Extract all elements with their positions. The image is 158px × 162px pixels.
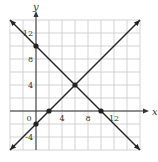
y-tick-label: 8: [28, 55, 33, 64]
y-tick-label: 12: [23, 29, 33, 38]
x-tick-label: 8: [85, 114, 90, 123]
data-point: [98, 108, 103, 113]
data-point: [33, 121, 38, 126]
y-tick-label: 4: [28, 81, 33, 90]
y-tick-label: -4: [25, 133, 33, 142]
x-axis-arrow-icon: [143, 109, 149, 114]
data-point: [46, 108, 51, 113]
data-point: [72, 82, 77, 87]
coordinate-plane: xy 048121284-4: [0, 0, 158, 162]
data-point: [33, 43, 38, 48]
x-tick-label: 12: [109, 114, 119, 123]
x-tick-label: 0: [26, 114, 31, 123]
x-tick-label: 4: [59, 114, 64, 123]
x-axis-label: x: [152, 106, 158, 117]
y-axis-label: y: [32, 1, 39, 12]
